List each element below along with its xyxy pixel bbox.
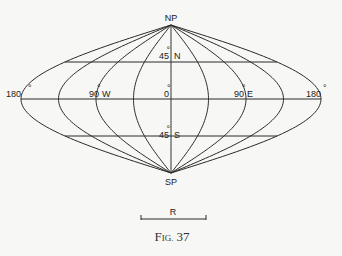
lon-90w-degree: °	[97, 83, 101, 93]
lon-180w-degree: °	[28, 83, 32, 93]
lon-180w-label: 180	[6, 89, 21, 99]
lat-45n-direction: N	[174, 51, 181, 61]
south-pole-label: SP	[165, 177, 177, 187]
lon-90e-direction: E	[247, 89, 253, 99]
scale-bar-label: R	[170, 207, 177, 217]
lat-45s-direction: S	[174, 130, 180, 140]
caption-number: 37	[176, 229, 190, 244]
lon-180e-degree: °	[323, 83, 327, 93]
lon-90e-degree: °	[242, 83, 246, 93]
caption-prefix: F	[155, 229, 162, 244]
graticule	[21, 25, 321, 173]
sinusoidal-projection-figure: NP SP 45 ° N 45 ° S 180 ° 90 ° W 0 ° 90 …	[0, 0, 342, 256]
lon-0-degree: °	[167, 83, 171, 93]
lat-45n-degree: °	[166, 45, 170, 55]
lon-90w-direction: W	[102, 89, 111, 99]
caption-small-caps: IG.	[162, 233, 174, 243]
lon-180e-label: 180	[306, 89, 321, 99]
figure-caption: FIG.37	[155, 229, 190, 244]
lat-45s-degree: °	[166, 124, 170, 134]
north-pole-label: NP	[165, 13, 178, 23]
